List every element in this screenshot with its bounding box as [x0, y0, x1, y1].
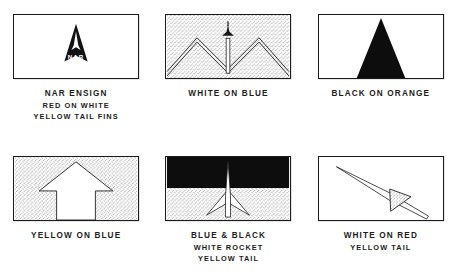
caption-nar-ensign: NAR ENSIGN RED ON WHITE YELLOW TAIL FINS: [34, 88, 119, 123]
flag-cell-black-on-orange: BLACK ON ORANGE: [305, 0, 457, 140]
caption-line: YELLOW TAIL: [344, 241, 418, 253]
caption-line: YELLOW TAIL FINS: [34, 111, 119, 123]
flag-blue-black-white-rocket: [165, 156, 291, 221]
flag-cell-white-on-blue: WHITE ON BLUE: [152, 0, 304, 140]
caption-white-on-red: WHITE ON RED YELLOW TAIL: [344, 230, 418, 253]
caption-line: RED ON WHITE: [34, 99, 119, 111]
caption-yellow-on-blue: YELLOW ON BLUE: [31, 230, 121, 242]
flag-cell-nar-ensign: NAR NAR ENSIGN RED ON WHITE YELLOW TAIL …: [0, 0, 152, 140]
flag-white-on-red-dart: [318, 156, 444, 221]
caption-white-on-blue: WHITE ON BLUE: [188, 88, 268, 100]
caption-line: YELLOW TAIL: [191, 253, 266, 265]
flag-white-on-blue: [165, 14, 291, 79]
caption-line: BLACK ON ORANGE: [331, 88, 430, 100]
caption-black-on-orange: BLACK ON ORANGE: [331, 88, 430, 100]
caption-line: WHITE ROCKET: [191, 241, 266, 253]
caption-line: BLUE & BLACK: [191, 230, 266, 242]
svg-text:NAR: NAR: [68, 53, 85, 60]
caption-line: YELLOW ON BLUE: [31, 230, 121, 242]
caption-line: NAR ENSIGN: [34, 88, 119, 100]
flag-cell-blue-black: BLUE & BLACK WHITE ROCKET YELLOW TAIL: [152, 140, 304, 280]
flag-cell-yellow-on-blue: YELLOW ON BLUE: [0, 140, 152, 280]
caption-line: WHITE ON BLUE: [188, 88, 268, 100]
caption-blue-black: BLUE & BLACK WHITE ROCKET YELLOW TAIL: [191, 230, 266, 265]
caption-line: WHITE ON RED: [344, 230, 418, 242]
flag-nar-ensign: NAR: [13, 14, 139, 79]
flag-cell-white-on-red: WHITE ON RED YELLOW TAIL: [305, 140, 457, 280]
flag-yellow-on-blue: [13, 156, 139, 221]
flag-designs-sheet: NAR NAR ENSIGN RED ON WHITE YELLOW TAIL …: [0, 0, 457, 280]
flag-black-on-orange: [318, 14, 444, 79]
